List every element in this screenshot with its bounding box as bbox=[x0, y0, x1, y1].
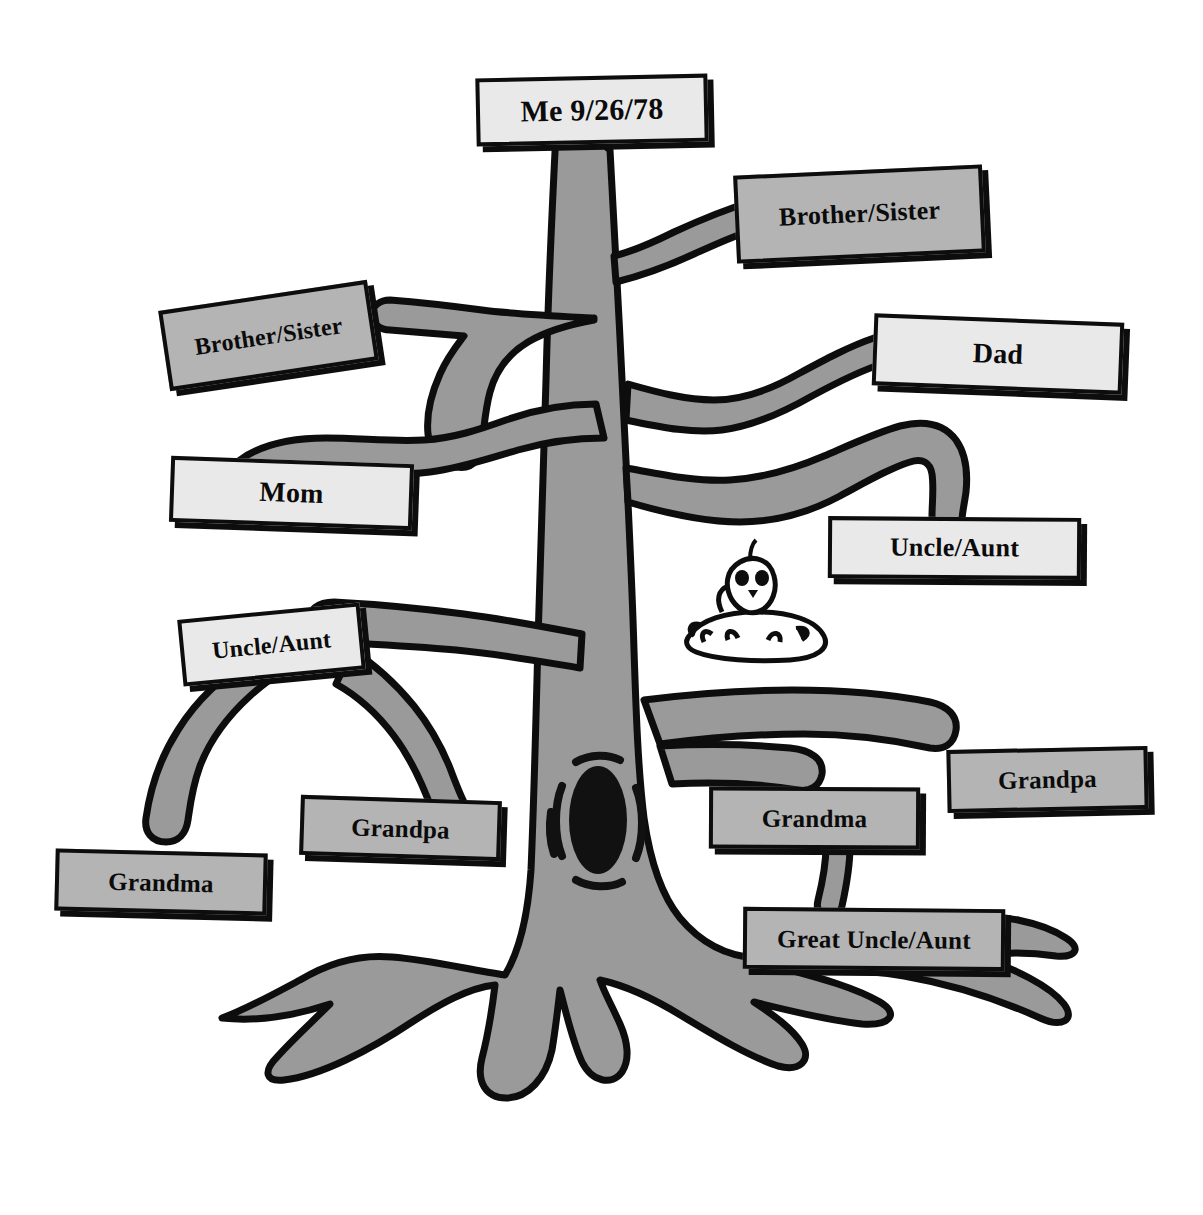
label-dad[interactable]: Dad bbox=[872, 313, 1125, 395]
label-great-uncle-aunt[interactable]: Great Uncle/Aunt bbox=[743, 907, 1006, 971]
branch-grandpa-right bbox=[644, 690, 956, 748]
label-text: Brother/Sister bbox=[778, 197, 940, 230]
branch-uncle-aunt-right bbox=[626, 423, 967, 532]
family-tree-diagram: Me 9/26/78Brother/SisterBrother/SisterDa… bbox=[0, 0, 1203, 1215]
label-uncle-aunt-right[interactable]: Uncle/Aunt bbox=[828, 516, 1081, 580]
label-brother-sister-right[interactable]: Brother/Sister bbox=[733, 164, 986, 263]
branch-grandma-right bbox=[660, 745, 822, 791]
label-text: Uncle/Aunt bbox=[211, 627, 332, 662]
label-me[interactable]: Me 9/26/78 bbox=[475, 74, 708, 147]
label-grandpa-left[interactable]: Grandpa bbox=[299, 795, 502, 861]
label-text: Uncle/Aunt bbox=[890, 535, 1019, 562]
label-text: Grandma bbox=[762, 805, 868, 831]
label-grandma-right[interactable]: Grandma bbox=[709, 786, 920, 849]
label-text: Grandma bbox=[108, 868, 214, 896]
label-grandma-left[interactable]: Grandma bbox=[54, 848, 267, 915]
label-text: Grandpa bbox=[351, 814, 450, 842]
label-text: Dad bbox=[972, 339, 1023, 369]
branch-great-uncle-aunt bbox=[817, 846, 850, 917]
label-text: Brother/Sister bbox=[193, 313, 344, 359]
bird-in-nest-icon bbox=[687, 540, 826, 661]
label-text: Me 9/26/78 bbox=[520, 94, 663, 127]
label-text: Mom bbox=[259, 478, 324, 508]
label-text: Great Uncle/Aunt bbox=[777, 926, 971, 953]
label-grandpa-right[interactable]: Grandpa bbox=[946, 746, 1148, 813]
label-text: Grandpa bbox=[998, 766, 1097, 793]
label-mom[interactable]: Mom bbox=[169, 456, 414, 530]
branch-dad bbox=[626, 337, 893, 431]
tree-illustration bbox=[0, 0, 1203, 1215]
